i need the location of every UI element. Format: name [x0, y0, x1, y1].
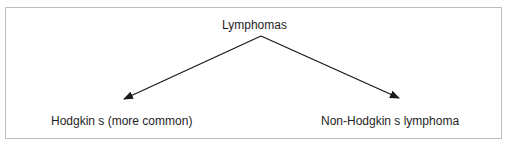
node-hodgkins: Hodgkin s (more common) [51, 114, 192, 128]
node-lymphomas: Lymphomas [222, 18, 287, 32]
node-non-hodgkins: Non-Hodgkin s lymphoma [321, 114, 459, 128]
